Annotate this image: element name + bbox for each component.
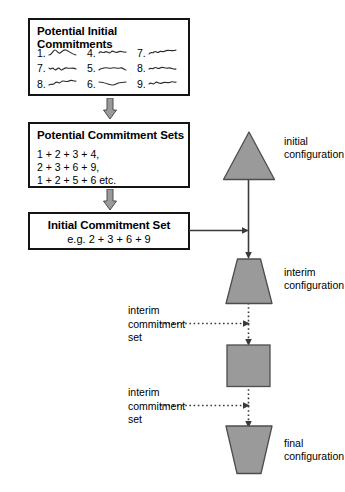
squiggle-icon — [148, 78, 178, 89]
box-initial-commitment-set: Initial Commitment Set e.g. 2 + 3 + 6 + … — [28, 212, 190, 250]
squiggle-icon — [48, 47, 78, 58]
diagram-canvas: Potential Initial Commitments 1. 4. 7. — [0, 0, 345, 492]
commitment-item: 1. — [37, 45, 87, 61]
initial-set-stack: Initial Commitment Set e.g. 2 + 3 + 6 + … — [30, 219, 188, 246]
box-potential-initial-commitments: Potential Initial Commitments 1. 4. 7. — [28, 18, 190, 96]
commitment-number: 8. — [137, 62, 146, 74]
shape-interim-configuration-trapezoid — [222, 258, 276, 305]
commitment-number: 9. — [137, 78, 146, 90]
commitment-set-line: 1 + 2 + 3 + 4, — [37, 148, 116, 161]
commitment-item: 7. — [137, 45, 187, 61]
commitment-number: 5. — [87, 62, 96, 74]
commitment-item: 6. — [87, 76, 137, 92]
connector-initial-to-interim — [243, 178, 254, 260]
squiggle-icon — [98, 47, 128, 58]
shape-final-configuration-trapezoid — [222, 425, 276, 475]
down-block-arrow-icon — [103, 98, 117, 120]
commitment-set-line: 2 + 3 + 6 + 9, — [37, 161, 116, 174]
connector-initial-set-to-spine — [189, 225, 251, 236]
signature-grid: 1. 4. 7. 7. — [37, 45, 187, 92]
box-title: Potential Commitment Sets — [37, 129, 184, 142]
commitment-item: 9. — [137, 76, 187, 92]
squiggle-icon — [98, 78, 128, 89]
squiggle-icon — [48, 63, 78, 74]
commitment-number: 7. — [37, 62, 46, 74]
commitment-number: 1. — [37, 47, 46, 59]
squiggle-icon — [98, 63, 128, 74]
shape-initial-configuration-triangle — [222, 131, 276, 181]
squiggle-icon — [148, 47, 178, 58]
commitment-number: 4. — [87, 47, 96, 59]
commitment-number: 6. — [87, 78, 96, 90]
commitment-set-line: 1 + 2 + 5 + 6 etc. — [37, 174, 116, 187]
shape-square-configuration — [226, 344, 272, 388]
commitment-number: 7. — [137, 47, 146, 59]
commitment-sets-list: 1 + 2 + 3 + 4, 2 + 3 + 6 + 9, 1 + 2 + 5 … — [37, 148, 116, 187]
commitment-number: 8. — [37, 78, 46, 90]
commitment-item: 7. — [37, 61, 87, 77]
commitment-item: 5. — [87, 61, 137, 77]
squiggle-icon — [48, 78, 78, 89]
commitment-item: 4. — [87, 45, 137, 61]
down-block-arrow-icon — [103, 189, 117, 211]
box-title: Initial Commitment Set — [30, 219, 188, 232]
box-potential-commitment-sets: Potential Commitment Sets 1 + 2 + 3 + 4,… — [28, 122, 190, 188]
squiggle-icon — [148, 63, 178, 74]
commitment-item: 8. — [37, 76, 87, 92]
commitment-item: 8. — [137, 61, 187, 77]
initial-set-example: e.g. 2 + 3 + 6 + 9 — [30, 232, 188, 246]
